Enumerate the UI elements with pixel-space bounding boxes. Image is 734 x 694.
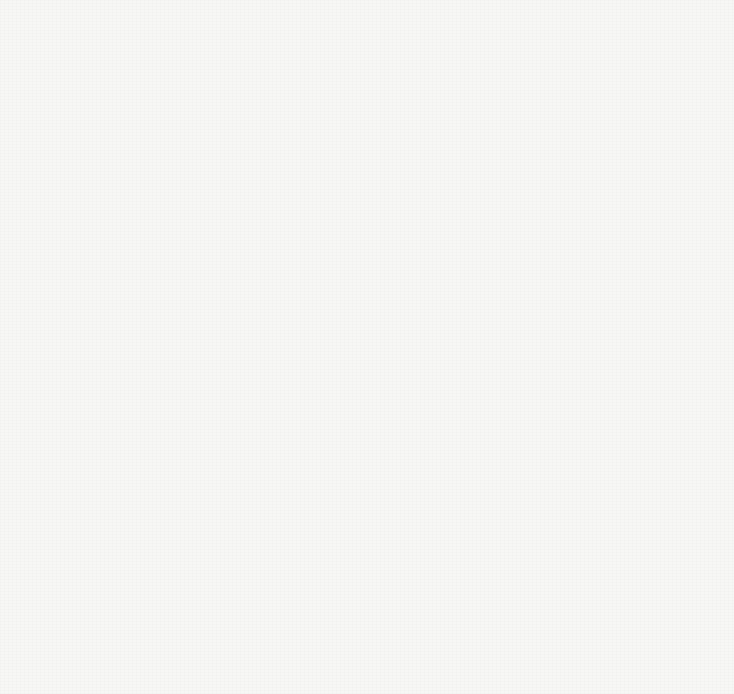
bar-value-1973-1: 27% [580,192,618,224]
legend-swatch-1973 [168,56,242,82]
bar-1950-3 [155,350,332,382]
bar-1950-1 [155,160,456,192]
bar-1973-5 [155,572,392,604]
legend-item-1950: 1950 [168,20,321,46]
bar-value-1950-3: 21% [339,350,377,382]
legend-label-1973: 1973 [278,58,321,80]
category-label-line-1: South [96,370,143,391]
chart-legend: 1950 1973 [168,20,321,92]
bar-1950-5 [155,540,259,572]
x-tick-label-0: 0 [148,638,159,660]
bar-1950-4 [155,445,176,477]
category-label-4: Great Plains,Mountain West [23,454,143,496]
category-label-line-1: Great Plains, [23,454,143,475]
category-label-line-1: Middle West [44,275,143,296]
bar-value-1950-1: 36% [463,160,501,192]
category-label-line-1: Northeast [65,180,143,201]
x-tick-label-30: 30 [442,638,463,660]
category-label-line-2: Mountain West [23,475,143,496]
chart-plot-area: 36%27%27%25%21%27%3%15%13%16% [153,144,653,633]
x-tick-label-20: 20 [342,638,363,660]
note-line-1: Numbers on bars are [496,64,678,88]
x-axis-title: Population (000,000) [168,661,326,681]
bar-1973-1 [155,192,573,224]
note-line-2: percentages of total [496,88,678,112]
bar-1973-3 [155,382,571,414]
x-tick-label-40: 40 [542,638,563,660]
category-label-5: Pacific [90,560,143,581]
bar-value-1950-2: 27% [388,255,426,287]
bar-1973-2 [155,287,538,319]
bar-value-1973-4: 15% [217,477,255,509]
legend-swatch-1950 [168,20,242,46]
category-label-line-1: Pacific [90,560,143,581]
x-tick-label-50: 50 [642,638,663,660]
bar-1950-2 [155,255,381,287]
x-tick-label-10: 10 [242,638,263,660]
legend-item-1973: 1973 [168,56,321,82]
bar-value-1973-5: 16% [399,572,437,604]
bar-1973-4 [155,477,210,509]
category-label-3: South [96,370,143,391]
bar-value-1973-3: 27% [578,382,616,414]
note-line-3: metropolitan population [496,112,678,136]
bar-value-1950-4: 3% [183,445,210,477]
bar-value-1950-5: 13% [266,540,304,572]
bar-value-1973-2: 25% [545,287,583,319]
chart-annotation-note: Numbers on bars are percentages of total… [496,64,678,136]
category-label-2: Middle West [44,275,143,296]
category-label-1: Northeast [65,180,143,201]
legend-label-1950: 1950 [278,22,321,44]
